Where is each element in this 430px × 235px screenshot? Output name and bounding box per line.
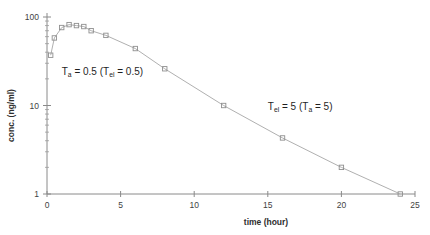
x-tick-label: 25 [410,200,420,210]
x-axis: 0510152025 [45,191,420,210]
data-series-plasma-concentration [48,22,402,196]
y-tick-label: 100 [25,12,39,22]
pharmacokinetic-chart: 110100 0510152025 Ta = 0.5 (Tel = 0.5)Te… [0,0,430,235]
x-tick-label: 5 [118,200,123,210]
x-tick-label: 20 [337,200,347,210]
absorption-phase-label: Ta = 0.5 (Tel = 0.5) [62,66,143,78]
x-axis-title: time (hour) [244,217,289,227]
elimination-phase-label: Tel = 5 (Ta = 5) [268,101,333,113]
y-tick-label: 10 [30,101,40,111]
y-tick-label: 1 [34,189,39,199]
y-axis: 110100 [25,12,51,199]
y-axis-title: conc. (ng/ml) [6,89,16,142]
chart-canvas: 110100 0510152025 Ta = 0.5 (Tel = 0.5)Te… [0,0,430,235]
x-tick-label: 10 [189,200,199,210]
concentration-curve [51,25,401,194]
x-tick-label: 15 [263,200,273,210]
x-tick-label: 0 [45,200,50,210]
